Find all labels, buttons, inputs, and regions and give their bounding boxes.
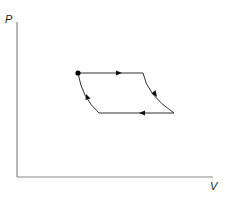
arrow-right-icon (116, 71, 122, 76)
y-axis-label: P (5, 14, 12, 25)
pv-diagram (0, 0, 230, 197)
x-axis-label: V (210, 181, 217, 192)
cycle-left-curve (78, 73, 99, 113)
cycle-right-curve (143, 73, 174, 113)
arrow-up-icon (86, 94, 91, 100)
start-point-dot (75, 70, 80, 75)
arrow-left-icon (139, 111, 145, 116)
